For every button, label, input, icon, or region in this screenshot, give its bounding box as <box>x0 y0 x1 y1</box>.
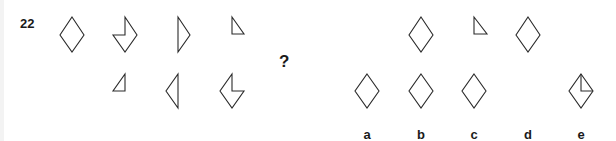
option-b-label[interactable]: b <box>411 127 431 141</box>
option-e[interactable] <box>559 10 603 140</box>
option-e-label[interactable]: e <box>571 127 591 141</box>
sequence-top-1-full-diamond-icon <box>60 17 84 52</box>
option-b[interactable] <box>399 10 443 140</box>
sequence-top-4-small-triangle-icon <box>232 17 244 34</box>
option-c[interactable] <box>452 10 496 140</box>
sequence-bottom-1-small-triangle-icon <box>113 74 125 91</box>
option-d-label[interactable]: d <box>518 127 538 141</box>
sequence-bottom-3-notched-diamond-icon <box>220 74 244 108</box>
sequence-top-3-right-half-diamond-icon <box>178 17 190 52</box>
option-d[interactable] <box>506 10 550 140</box>
option-a[interactable] <box>345 10 389 140</box>
option-a-label[interactable]: a <box>357 127 377 141</box>
sequence-bottom-2-left-half-diamond-icon <box>166 74 178 108</box>
option-c-label[interactable]: c <box>464 127 484 141</box>
sequence-top-2-notched-diamond-icon <box>113 17 137 52</box>
question-mark: ? <box>279 52 289 72</box>
